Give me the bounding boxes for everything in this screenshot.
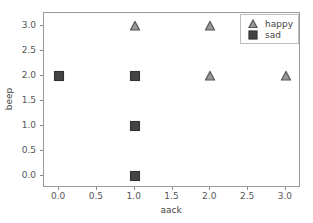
y-tick-mark: [40, 50, 43, 51]
x-tick-label: 1.0: [127, 191, 141, 201]
x-tick-label: 1.5: [164, 191, 178, 201]
x-tick-mark: [247, 187, 248, 190]
y-axis-label: beep: [4, 88, 14, 111]
triangle-marker-icon: [245, 19, 261, 29]
data-point-sad: [129, 170, 140, 181]
y-tick-label: 2.5: [22, 45, 36, 55]
y-tick-label: 2.0: [22, 70, 36, 80]
x-tick-mark: [209, 187, 210, 190]
y-tick-label: 1.0: [22, 120, 36, 130]
data-point-happy: [129, 20, 140, 31]
y-tick-mark: [40, 125, 43, 126]
x-tick-label: 0.5: [89, 191, 103, 201]
legend-label: happy: [265, 19, 293, 29]
y-tick-mark: [40, 75, 43, 76]
x-tick-mark: [134, 187, 135, 190]
square-marker-icon: [245, 30, 261, 40]
x-tick-mark: [96, 187, 97, 190]
legend-item-sad: sad: [245, 29, 293, 40]
data-point-sad: [129, 70, 140, 81]
data-point-happy: [205, 20, 216, 31]
y-tick-label: 0.5: [22, 145, 36, 155]
y-tick-label: 3.0: [22, 20, 36, 30]
y-tick-mark: [40, 100, 43, 101]
data-point-sad: [54, 70, 65, 81]
y-tick-label: 0.0: [22, 170, 36, 180]
matplotlib-figure: 0.00.51.01.52.02.53.0 0.00.51.01.52.02.5…: [0, 0, 313, 223]
data-point-happy: [205, 70, 216, 81]
x-tick-mark: [172, 187, 173, 190]
x-tick-mark: [285, 187, 286, 190]
y-tick-mark: [40, 150, 43, 151]
x-axis-label: aack: [160, 205, 181, 215]
x-tick-label: 2.0: [202, 191, 216, 201]
legend-item-happy: happy: [245, 18, 293, 29]
x-tick-mark: [58, 187, 59, 190]
y-tick-label: 1.5: [22, 95, 36, 105]
data-point-happy: [280, 70, 291, 81]
legend-label: sad: [265, 30, 281, 40]
x-tick-label: 0.0: [51, 191, 65, 201]
legend: happysad: [240, 14, 299, 44]
x-tick-label: 2.5: [240, 191, 254, 201]
x-tick-label: 3.0: [278, 191, 292, 201]
y-tick-mark: [40, 175, 43, 176]
data-point-sad: [129, 120, 140, 131]
y-tick-mark: [40, 25, 43, 26]
